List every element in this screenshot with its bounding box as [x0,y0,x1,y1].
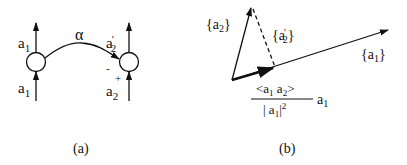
panel-b: {a2} {a'2} {a1} <a1 a2> | a1|2 a1 (b) [206,8,388,157]
projection-denominator: | a1|2 [263,101,286,119]
label-a1: {a1} [361,47,386,64]
right-node-circle [120,53,139,72]
right-top-label: a'2 [106,33,116,54]
projection-vector-arrow [232,68,273,80]
figure-canvas: a1 a1 α a'2 - + a2 (a) {a2} {a'2} {a1} <… [0,0,407,165]
left-node-circle [27,53,46,72]
projection-factor: a1 [317,92,328,109]
projection-numerator: <a1 a2> [256,81,294,98]
label-a2-prime: {a'2} [272,27,295,45]
label-a2: {a2} [206,17,231,34]
alpha-label: α [75,26,84,43]
left-top-label: a1 [18,35,30,54]
caption-a: (a) [73,141,89,157]
panel-a: a1 a1 α a'2 - + a2 (a) [18,23,139,157]
minus-sign: - [106,62,110,74]
right-bottom-label: a2 [106,83,118,102]
plus-sign: + [115,72,121,84]
caption-b: (b) [279,141,296,157]
left-bottom-label: a1 [18,80,30,99]
vector-a2-arrow [232,8,251,80]
